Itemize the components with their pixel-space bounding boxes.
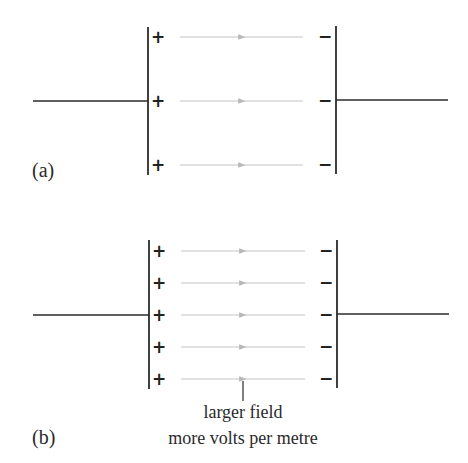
plus-sign: + [151,93,165,110]
annotation-line-1: larger field [123,403,363,421]
diagram-canvas [0,0,468,463]
panel-a [33,26,448,175]
field-lines-b [181,251,305,379]
panel-b [33,240,449,401]
minus-sign: − [319,370,333,387]
plus-sign: + [151,29,165,46]
annotation-line-2: more volts per metre [123,429,363,447]
plus-sign: + [152,307,166,324]
minus-sign: − [319,306,333,323]
plus-sign: + [152,243,166,260]
plus-sign: + [152,339,166,356]
minus-sign: − [318,92,332,109]
plus-sign: + [151,157,165,174]
minus-sign: − [318,156,332,173]
plus-sign: + [152,275,166,292]
minus-sign: − [319,274,333,291]
plus-sign: + [152,371,166,388]
field-lines-a [180,37,303,165]
panel-label-b: (b) [32,427,55,447]
minus-sign: − [319,338,333,355]
minus-sign: − [319,242,333,259]
minus-sign: − [318,28,332,45]
panel-label-a: (a) [32,160,54,180]
